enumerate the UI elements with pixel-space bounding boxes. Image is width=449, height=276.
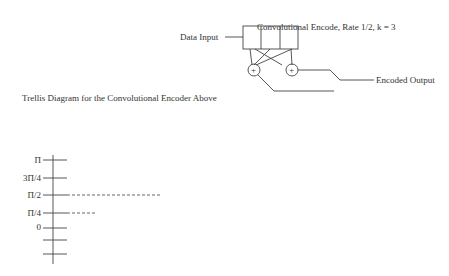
output-line-2: [298, 70, 374, 80]
tick-3pi-4: 3Π/4: [23, 173, 42, 183]
tick-pi-4: Π/4: [28, 208, 42, 218]
encoded-output-label: Encoded Output: [376, 75, 435, 85]
tick-pi-2: Π/2: [28, 190, 42, 200]
data-input-label: Data Input: [180, 32, 219, 42]
y-axis: Π 3Π/4 Π/2 Π/4 0: [23, 155, 67, 264]
diagram-canvas: Convolutional Encode, Rate 1/2, k = 3 Da…: [0, 0, 449, 276]
trellis-title: Trellis Diagram for the Convolutional En…: [22, 93, 217, 103]
adder-2-symbol: +: [289, 65, 294, 75]
tick-zero: 0: [37, 222, 42, 232]
encoder-block: Convolutional Encode, Rate 1/2, k = 3 Da…: [180, 22, 435, 91]
output-line-1: [258, 75, 334, 91]
encoder-title: Convolutional Encode, Rate 1/2, k = 3: [257, 22, 396, 32]
tick-pi: Π: [35, 155, 42, 165]
adder-1-symbol: +: [251, 65, 256, 75]
